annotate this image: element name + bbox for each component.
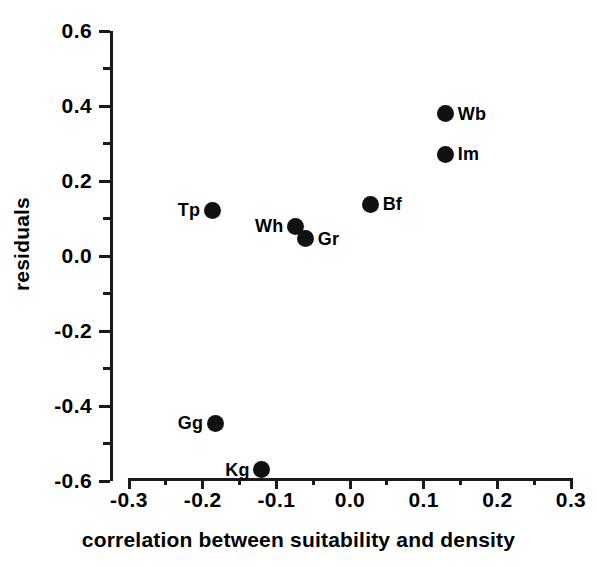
y-tick-label-text: 0.6 [14,20,92,41]
y-tick-minor [103,67,110,70]
y-tick-major [99,180,110,183]
y-tick-label-text: 0.4 [14,95,92,116]
x-tick-minor [312,478,315,485]
x-tick-minor [385,478,388,485]
x-axis-title: correlation between suitability and dens… [0,528,597,552]
y-tick-major [99,30,110,33]
y-tick-label: 0.4 [8,95,92,117]
y-tick-label-text: -0.4 [14,395,92,416]
y-tick-label: -0.4 [8,395,92,417]
y-tick-minor [103,142,110,145]
data-point [437,105,454,122]
data-point-label: Tp [178,201,200,219]
data-point [253,461,270,478]
data-point [437,146,454,163]
data-point-label: Bf [383,195,402,213]
y-tick-label: -0.6 [8,470,92,492]
data-point [207,415,224,432]
data-point-label: Gg [178,414,203,432]
data-point [297,230,314,247]
y-tick-minor [103,217,110,220]
data-point-label: Wb [458,105,486,123]
data-point [362,196,379,213]
y-tick-major [99,105,110,108]
x-tick-minor [459,478,462,485]
y-tick-label: 0.6 [8,20,92,42]
y-tick-minor [103,367,110,370]
y-tick-minor [103,292,110,295]
data-point-label: Gr [318,230,339,248]
data-point [204,202,221,219]
x-tick-minor [164,478,167,485]
y-axis-line [110,31,113,481]
x-tick-label: 0.3 [526,489,597,510]
y-tick-minor [103,442,110,445]
y-axis-title: residuals [10,134,34,354]
y-tick-label-text: -0.6 [14,470,92,491]
data-point-label: Im [458,145,479,163]
data-point-label: Wh [255,217,283,235]
y-tick-major [99,480,110,483]
scatter-plot-figure: 0.60.40.20.0-0.2-0.4-0.6 -0.3-0.2-0.10.0… [0,0,597,567]
x-tick-minor [533,478,536,485]
data-point-label: Kg [225,461,249,479]
y-tick-major [99,330,110,333]
y-tick-major [99,255,110,258]
y-tick-major [99,405,110,408]
